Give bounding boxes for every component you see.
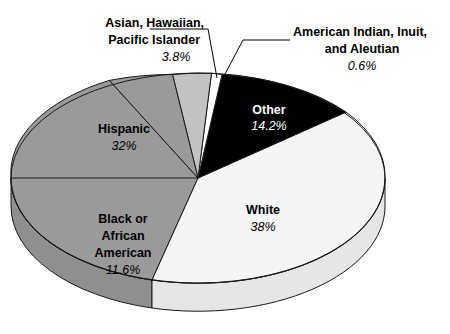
label-hispanic-percent: 32% (111, 139, 136, 153)
label-asian-pacific-islander-percent: 3.8% (162, 50, 191, 64)
label-black-african-american-line2: African (101, 229, 144, 243)
label-american-indian-line2: and Aleutian (325, 42, 400, 56)
label-other-percent: 14.2% (251, 119, 286, 133)
label-white-percent: 38% (250, 220, 275, 234)
label-american-indian-line1: American Indian, Inuit, (293, 25, 427, 39)
label-american-indian: American Indian, Inuit, and Aleutian 0.6… (293, 25, 427, 73)
pie-chart-figure: Asian, Hawaiian, Pacific Islander 3.8% A… (0, 0, 450, 334)
label-other-name: Other (252, 103, 285, 117)
label-white-name: White (246, 203, 280, 217)
leader-line-american-indian (224, 40, 290, 76)
label-hispanic-name: Hispanic (98, 122, 150, 136)
label-asian-pacific-islander-line2: Pacific Islander (108, 33, 200, 47)
pie-slices (11, 73, 385, 283)
label-black-african-american-line3: American (95, 246, 152, 260)
label-asian-pacific-islander: Asian, Hawaiian, Pacific Islander 3.8% (105, 16, 204, 64)
label-american-indian-percent: 0.6% (348, 59, 377, 73)
label-black-african-american-percent: 11.6% (106, 263, 141, 277)
label-black-african-american-line1: Black or (98, 212, 147, 226)
pie-chart-canvas: Asian, Hawaiian, Pacific Islander 3.8% A… (0, 0, 450, 334)
label-asian-pacific-islander-line1: Asian, Hawaiian, (105, 16, 204, 30)
